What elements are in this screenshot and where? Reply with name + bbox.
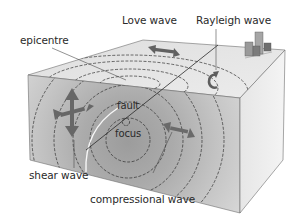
label-fault: fault <box>117 101 139 111</box>
label-rayleigh-wave: Rayleigh wave <box>196 15 271 26</box>
label-focus: focus <box>115 129 141 139</box>
label-compressional-wave: compressional wave <box>90 194 195 205</box>
block-diagram-graphic <box>0 0 303 214</box>
label-epicentre: epicentre <box>20 35 69 46</box>
label-shear-wave: shear wave <box>29 170 88 181</box>
label-love-wave: Love wave <box>122 15 177 26</box>
earthquake-diagram: Love wave Rayleigh wave epicentre fault … <box>0 0 303 214</box>
